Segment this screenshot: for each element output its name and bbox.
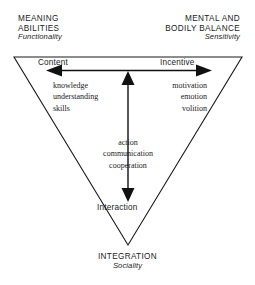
word-left-2: skills [53, 103, 98, 114]
word-left-1: understanding [53, 91, 98, 102]
axis-label-content: Content [38, 58, 68, 68]
diagram-canvas: MEANING ABILITIES Functionality MENTAL A… [0, 0, 255, 285]
corner-right-line1: MENTAL AND [165, 14, 240, 24]
corner-heading-right: MENTAL AND BODILY BALANCE Sensitivity [165, 14, 240, 42]
corner-heading-bottom: INTEGRATION Sociality [0, 252, 255, 271]
axis-label-incentive: Incentive [160, 58, 195, 68]
corner-left-subtitle: Functionality [18, 33, 62, 42]
arrowhead-up-icon [122, 71, 135, 85]
corner-left-line1: MEANING [18, 14, 62, 24]
word-center-2: cooperation [78, 160, 178, 171]
word-right-0: motivation [151, 80, 207, 91]
corner-right-subtitle: Sensitivity [165, 33, 240, 42]
axis-label-interaction: Interaction [97, 203, 137, 213]
arrowhead-down-icon [122, 188, 135, 202]
word-right-2: volition [151, 103, 207, 114]
word-group-center: action communication cooperation [78, 137, 178, 171]
word-right-1: emotion [151, 91, 207, 102]
word-group-left: knowledge understanding skills [53, 80, 98, 114]
arrowhead-right-icon [196, 65, 212, 77]
corner-bottom-subtitle: Sociality [0, 262, 255, 271]
word-center-0: action [78, 137, 178, 148]
word-center-1: communication [78, 148, 178, 159]
corner-heading-left: MEANING ABILITIES Functionality [18, 14, 62, 42]
word-group-right: motivation emotion volition [151, 80, 207, 114]
word-left-0: knowledge [53, 80, 98, 91]
